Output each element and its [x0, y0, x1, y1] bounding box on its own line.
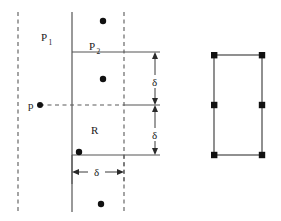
label-delta-bottom: δ [152, 129, 157, 141]
point-corner-top-right [259, 52, 265, 58]
point-mid-left [211, 102, 217, 108]
arrowhead-left-width [72, 169, 79, 175]
point-lower-left-in-r [76, 149, 82, 155]
point-mid-right [259, 102, 265, 108]
label-point-p: p [28, 99, 34, 111]
arrowhead-down-top [152, 98, 158, 105]
label-delta-top: δ [152, 76, 157, 88]
point-corner-top-left [211, 52, 217, 58]
figure-container: P 1 P 2 p R δ δ δ [0, 0, 281, 221]
point-corner-bottom-left [211, 152, 217, 158]
label-region-r: R [91, 124, 99, 136]
point-p [37, 102, 43, 108]
geometry-diagram: P 1 P 2 p R δ δ δ [0, 0, 281, 221]
arrowhead-right-width [117, 169, 124, 175]
point-above-slab [100, 18, 106, 24]
label-p1-base: P [41, 31, 47, 43]
arrowhead-up-bottom [152, 105, 158, 112]
arrowhead-down-bottom [152, 148, 158, 155]
label-p2-subscript: 2 [97, 47, 101, 56]
label-p2-base: P [89, 40, 95, 52]
right-rectangle [214, 55, 262, 155]
label-delta-width: δ [94, 166, 99, 178]
arrowhead-up-top [152, 52, 158, 59]
label-p1-subscript: 1 [49, 38, 53, 47]
point-corner-bottom-right [259, 152, 265, 158]
point-below-slab [98, 201, 104, 207]
point-upper-inside-r [100, 76, 106, 82]
